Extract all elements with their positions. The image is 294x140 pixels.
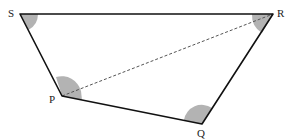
diagonal-pr xyxy=(62,14,273,96)
quadrilateral-diagram: S R Q P xyxy=(0,0,294,140)
vertex-label-p: P xyxy=(49,93,55,105)
vertex-label-q: Q xyxy=(197,127,205,139)
angle-mark-p xyxy=(56,76,82,100)
quadrilateral-sides xyxy=(20,14,273,124)
vertex-label-s: S xyxy=(8,7,14,19)
vertex-label-r: R xyxy=(277,7,285,19)
angle-mark-s xyxy=(20,14,38,30)
